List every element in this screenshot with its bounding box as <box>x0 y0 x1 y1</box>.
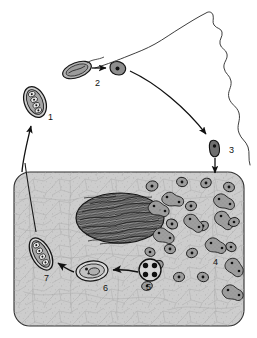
cell-nucleus <box>76 193 164 244</box>
stage-label-1: 1 <box>48 112 53 122</box>
stage-5-quadrinucleate-cyst <box>139 259 161 281</box>
stage-2-free-form <box>110 62 126 75</box>
stage-label-3: 3 <box>229 145 234 155</box>
life-cycle-figure: 1 2 3 4 5 6 7 <box>0 0 257 338</box>
arrow-cell-to-stage1 <box>22 126 31 172</box>
stage-3-invading-form <box>209 140 219 157</box>
diagram-canvas: 1 2 3 4 5 6 7 <box>0 0 257 338</box>
host-organism-outline <box>95 12 250 165</box>
stage-label-7: 7 <box>44 273 49 283</box>
stage-label-2: 2 <box>95 78 100 88</box>
stage-1-oocyst <box>19 83 50 121</box>
stage-label-5: 5 <box>146 282 151 292</box>
stage-label-4: 4 <box>213 257 218 267</box>
stage-label-6: 6 <box>103 283 108 293</box>
arrow-sporozoite-to-stage3 <box>130 71 206 134</box>
